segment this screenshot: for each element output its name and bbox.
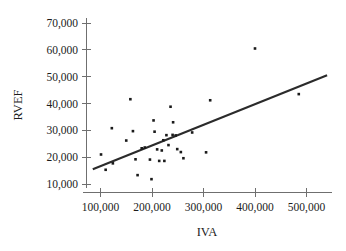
data-point <box>134 158 137 161</box>
x-axis-title: IVA <box>197 225 218 239</box>
data-point <box>129 98 132 101</box>
data-point-group <box>100 47 300 180</box>
data-point <box>104 168 107 171</box>
x-tick-label: 500,000 <box>288 201 326 214</box>
y-tick-label: 20,000 <box>46 151 78 164</box>
data-point <box>152 119 155 122</box>
data-point <box>143 146 146 149</box>
data-point <box>158 160 161 163</box>
scatter-plot-figure: 10,00020,00030,00040,00050,00060,00070,0… <box>0 0 346 251</box>
data-point <box>180 151 183 154</box>
y-tick-label: 50,000 <box>46 71 78 84</box>
x-tick-label: 300,000 <box>185 201 223 214</box>
regression-trendline <box>93 75 327 169</box>
data-point <box>163 160 166 163</box>
data-point <box>160 149 163 152</box>
data-point <box>165 134 168 137</box>
data-point <box>162 139 165 142</box>
data-point <box>191 131 194 134</box>
x-tick-label: 200,000 <box>133 201 171 214</box>
data-point <box>297 93 300 96</box>
data-point <box>156 148 159 151</box>
data-point <box>167 144 170 147</box>
y-tick-label: 60,000 <box>46 44 78 57</box>
plot-canvas: 10,00020,00030,00040,00050,00060,00070,0… <box>0 0 346 251</box>
data-point <box>172 121 175 124</box>
data-point <box>153 130 156 133</box>
x-tick-label: 100,000 <box>82 201 120 214</box>
y-tick-label: 40,000 <box>46 98 78 111</box>
y-tick-label: 10,000 <box>46 178 78 191</box>
data-point <box>209 99 212 102</box>
data-point <box>140 147 143 150</box>
y-tick-label: 70,000 <box>46 17 78 30</box>
data-point <box>182 157 185 160</box>
data-point <box>254 47 257 50</box>
y-tick-label: 30,000 <box>46 124 78 137</box>
data-point <box>125 139 128 142</box>
data-point <box>205 151 208 154</box>
data-point <box>174 134 177 137</box>
data-point <box>169 105 172 108</box>
data-point <box>149 158 152 161</box>
data-point <box>176 148 179 151</box>
data-point <box>111 127 114 130</box>
x-tick-label: 400,000 <box>236 201 274 214</box>
data-point <box>100 153 103 156</box>
data-point <box>132 130 135 133</box>
x-axis-tick-labels: 100,000200,000300,000400,000500,000 <box>82 201 326 214</box>
data-point <box>150 178 153 181</box>
y-axis-title: RVEF <box>11 89 25 120</box>
data-point <box>112 162 115 165</box>
y-axis-tick-labels: 10,00020,00030,00040,00050,00060,00070,0… <box>46 17 78 191</box>
data-point <box>136 174 139 177</box>
data-point <box>171 134 174 137</box>
